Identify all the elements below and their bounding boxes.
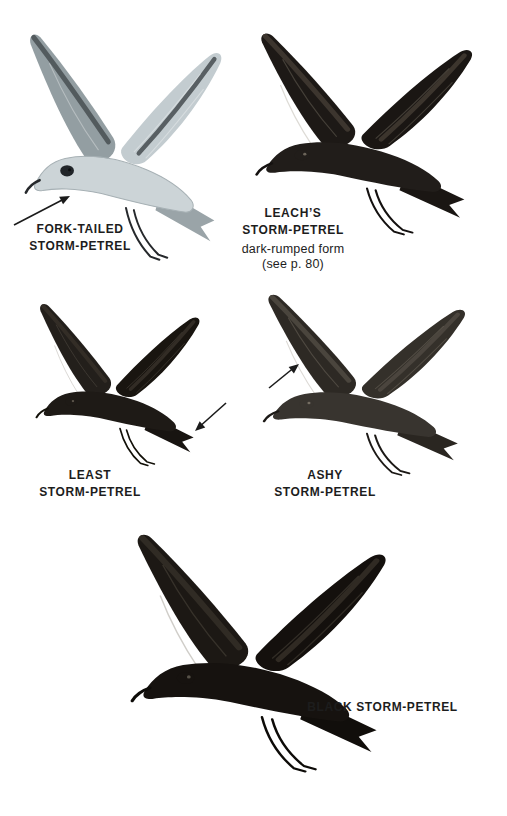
ashy-storm-petrel-label: ASHY STORM-PETREL — [263, 467, 387, 501]
label-line: STORM-PETREL — [18, 238, 142, 255]
label-line: STORM-PETREL — [231, 222, 355, 239]
label-line: STORM-PETREL — [263, 484, 387, 501]
label-line: LEACH’S — [231, 205, 355, 222]
label-line: FORK-TAILED — [18, 221, 142, 238]
black-storm-petrel-label: BLACK STORM-PETREL — [300, 699, 465, 716]
label-line: BLACK STORM-PETREL — [300, 699, 465, 716]
label-line: STORM-PETREL — [28, 484, 152, 501]
label-line: LEAST — [28, 467, 152, 484]
ashy-pointer-arrow-icon — [264, 357, 306, 393]
field-guide-plate: FORK-TAILED STORM-PETREL LEACH’S STORM-P… — [0, 0, 507, 816]
note-line: dark-rumped form — [231, 242, 355, 257]
black-storm-petrel-illustration — [122, 526, 402, 778]
least-storm-petrel-label: LEAST STORM-PETREL — [28, 467, 152, 501]
least-storm-petrel-illustration — [30, 298, 210, 470]
label-line: ASHY — [263, 467, 387, 484]
leachs-storm-petrel-label: LEACH’S STORM-PETREL dark-rumped form (s… — [231, 205, 355, 272]
fork-tailed-storm-petrel-label: FORK-TAILED STORM-PETREL — [18, 221, 142, 255]
note-line: (see p. 80) — [231, 257, 355, 272]
least-pointer-arrow-icon — [188, 398, 232, 438]
leachs-form-note: dark-rumped form (see p. 80) — [231, 242, 355, 272]
